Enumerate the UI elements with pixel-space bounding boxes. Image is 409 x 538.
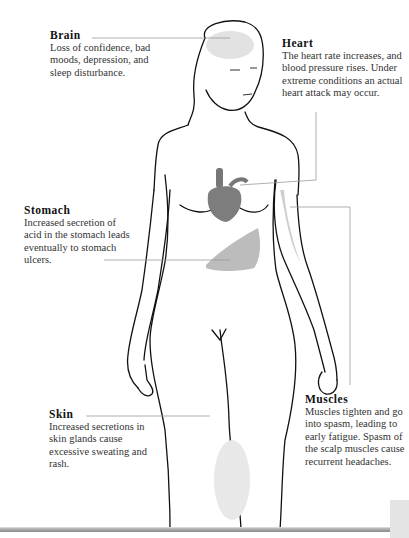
page-corner	[390, 500, 409, 538]
label-stomach-title: Stomach	[24, 204, 134, 217]
label-skin: Skin Increased secretions in skin glands…	[49, 408, 149, 471]
label-heart-text: The heart rate increases, and blood pres…	[282, 50, 407, 100]
leader-muscles	[290, 207, 350, 385]
label-stomach: Stomach Increased secretion of acid in t…	[24, 204, 134, 267]
label-heart-title: Heart	[282, 37, 407, 50]
label-brain-title: Brain	[50, 29, 170, 42]
label-heart: Heart The heart rate increases, and bloo…	[282, 37, 407, 100]
label-brain-text: Loss of confidence, bad moods, depressio…	[50, 42, 170, 79]
right-hand	[319, 372, 338, 394]
label-brain: Brain Loss of confidence, bad moods, dep…	[50, 29, 170, 79]
skin-shading	[214, 440, 250, 520]
heart-organ	[208, 168, 247, 222]
hair-outline	[188, 38, 205, 125]
right-arm-outer	[297, 195, 337, 380]
label-muscles-title: Muscles	[305, 393, 409, 406]
left-shoulder	[154, 125, 188, 190]
floor-line	[0, 527, 390, 532]
label-skin-text: Increased secretions in skin glands caus…	[49, 421, 149, 471]
brain-organ	[206, 31, 254, 59]
left-hand	[138, 365, 153, 396]
label-skin-title: Skin	[49, 408, 149, 421]
right-arm-inner	[274, 180, 325, 372]
label-muscles-text: Muscles tighten and go into spasm, leadi…	[305, 406, 409, 468]
groin	[212, 329, 226, 340]
stomach-organ	[206, 228, 260, 271]
mouth	[243, 94, 252, 95]
label-stomach-text: Increased secretion of acid in the stoma…	[24, 217, 134, 267]
label-muscles: Muscles Muscles tighten and go into spas…	[305, 393, 409, 468]
left-arm-inner	[144, 190, 170, 360]
